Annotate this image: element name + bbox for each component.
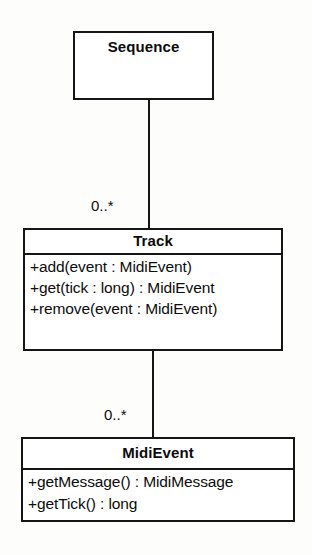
multiplicity-label-sequence-track: 0..* — [91, 197, 114, 214]
class-box-sequence[interactable]: Sequence — [73, 31, 214, 100]
association-line-track-midievent — [152, 350, 154, 439]
class-name-sequence: Sequence — [75, 33, 212, 61]
class-members-track: +add(event : MidiEvent) +get(tick : long… — [25, 253, 281, 349]
class-box-midievent[interactable]: MidiEvent +getMessage() : MidiMessage +g… — [21, 437, 295, 522]
class-member: +remove(event : MidiEvent) — [30, 298, 281, 319]
class-member: +getMessage() : MidiMessage — [28, 471, 293, 493]
class-member: +getTick() : long — [28, 493, 293, 515]
class-member: +add(event : MidiEvent) — [30, 256, 281, 277]
uml-class-diagram: 0..* 0..* Sequence Track +add(event : Mi… — [0, 0, 312, 555]
multiplicity-label-track-midievent: 0..* — [104, 406, 127, 423]
association-line-sequence-track — [148, 99, 150, 230]
class-members-midievent: +getMessage() : MidiMessage +getTick() :… — [23, 468, 293, 520]
class-box-track[interactable]: Track +add(event : MidiEvent) +get(tick … — [23, 228, 283, 351]
class-name-midievent: MidiEvent — [23, 439, 293, 468]
class-name-track: Track — [25, 230, 281, 253]
class-member: +get(tick : long) : MidiEvent — [30, 277, 281, 298]
